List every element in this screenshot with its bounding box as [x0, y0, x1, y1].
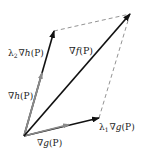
lagrange-vector-diagram: ∇f(P) λ2∇h(P) ∇h(P) ∇g(P) λ1∇g(P) — [0, 0, 158, 152]
grad-f-vector — [24, 14, 130, 136]
dashed-line-top — [54, 14, 130, 31]
grad-g-vector — [24, 125, 69, 137]
label-grad-h: ∇h(P) — [8, 91, 33, 101]
label-grad-f: ∇f(P) — [69, 45, 93, 56]
label-grad-g: ∇g(P) — [37, 138, 62, 148]
label-lambda1-grad-g: λ1∇g(P) — [99, 122, 135, 133]
label-lambda2-grad-h: λ2∇h(P) — [8, 48, 44, 59]
dashed-line-right — [99, 14, 130, 118]
